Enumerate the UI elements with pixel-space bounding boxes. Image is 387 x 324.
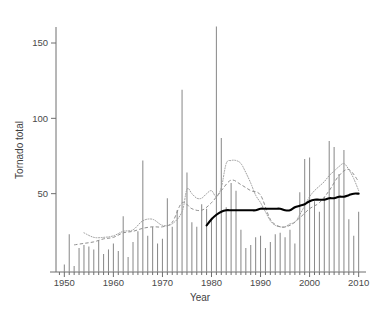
x-tick-label: 1990 [250,277,271,288]
x-tick-label: 1950 [54,277,75,288]
trend-line-solid-trend [207,194,359,226]
tick-labels: 501001501950196019701980199020002010 [32,37,369,288]
x-tick-label: 2010 [348,277,369,288]
y-tick-label: 50 [37,188,48,199]
x-axis-title: Year [190,292,211,303]
x-tick-label: 1960 [103,277,124,288]
x-tick-label: 2000 [299,277,320,288]
bar-series [64,26,358,272]
x-tick-label: 1980 [201,277,222,288]
tornado-total-figure: Tornado total Year 501001501950196019701… [0,0,387,324]
y-axis-title: Tornado total [14,121,25,179]
axes [50,27,366,277]
y-tick-label: 150 [32,37,48,48]
x-tick-label: 1970 [152,277,173,288]
tornado-total-chart: Tornado total Year 501001501950196019701… [0,0,387,324]
y-tick-label: 100 [32,113,48,124]
